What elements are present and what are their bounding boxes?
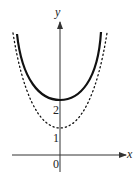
- origin-label: 0: [53, 158, 59, 170]
- graph: [0, 0, 138, 178]
- solid-curve: [17, 32, 101, 100]
- y-axis-label: y: [55, 6, 60, 18]
- tick-label-1: 1: [53, 132, 59, 144]
- tick-label-2: 2: [53, 104, 59, 116]
- x-axis-label: x: [127, 148, 132, 160]
